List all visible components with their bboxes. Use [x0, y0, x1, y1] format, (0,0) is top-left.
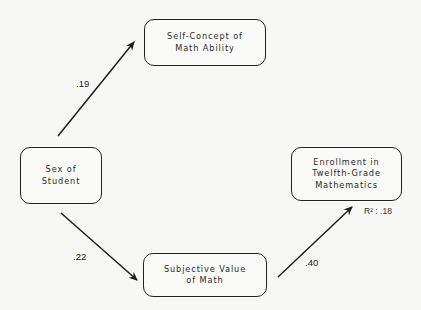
- r-squared-annotation: R² : .18: [364, 206, 392, 216]
- node-subjective-value: Subjective Value of Math: [143, 253, 267, 297]
- node-label-line: Math Ability: [167, 43, 243, 55]
- node-label-line: of Math: [164, 275, 246, 287]
- arrow-sex-to-subjective-value: [61, 213, 137, 280]
- coefficient-label-sex-self-concept: .19: [76, 78, 89, 89]
- node-label-line: Enrollment in: [312, 157, 381, 169]
- coefficient-label-subjective-enrollment: .40: [305, 257, 318, 268]
- node-label-line: Self-Concept of: [167, 31, 243, 43]
- coefficient-label-sex-subjective-value: .22: [73, 251, 86, 262]
- node-sex-of-student: Sex of Student: [20, 147, 102, 204]
- node-label-line: Sex of: [42, 164, 81, 176]
- node-enrollment: Enrollment in Twelfth-Grade Mathematics: [291, 147, 402, 201]
- node-label-line: Mathematics: [312, 180, 381, 192]
- node-label-line: Subjective Value: [164, 264, 246, 276]
- node-label-line: Twelfth-Grade: [312, 168, 381, 180]
- node-label-line: Student: [42, 176, 81, 188]
- arrow-sex-to-self-concept: [58, 42, 134, 136]
- path-diagram: Self-Concept of Math Ability Sex of Stud…: [0, 0, 421, 310]
- node-self-concept: Self-Concept of Math Ability: [144, 19, 266, 66]
